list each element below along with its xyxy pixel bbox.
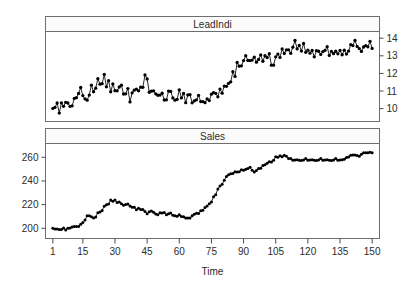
x-tick-label: 45 [142,246,154,257]
x-tick-label: 15 [77,246,89,257]
x-tick-label: 75 [206,246,218,257]
y-tick-label-leadindi: 11 [387,86,398,97]
y-tick-label-sales: 260 [22,152,39,163]
y-tick-label-leadindi: 10 [387,103,399,114]
strip-label-sales: Sales [200,131,225,142]
x-tick-label: 120 [300,246,317,257]
x-tick-label: 1 [50,246,56,257]
x-tick-label: 60 [174,246,186,257]
x-tick-label: 135 [332,246,349,257]
x-tick-label: 150 [364,246,381,257]
y-tick-label-leadindi: 14 [387,33,399,44]
y-tick-label-sales: 220 [22,199,39,210]
plot-canvas: LeadIndi 1011121314 Sales 200220240260 1… [0,0,417,284]
x-tick-label: 105 [267,246,284,257]
y-tick-label-sales: 240 [22,175,39,186]
x-tick-label: 30 [109,246,121,257]
trellis-time-series-figure: LeadIndi 1011121314 Sales 200220240260 1… [0,0,417,284]
strip-label-leadindi: LeadIndi [193,19,231,30]
y-tick-label-sales: 200 [22,223,39,234]
x-tick-label: 90 [238,246,250,257]
y-tick-label-leadindi: 12 [387,68,399,79]
y-tick-label-leadindi: 13 [387,50,399,61]
x-axis-title: Time [202,266,224,277]
